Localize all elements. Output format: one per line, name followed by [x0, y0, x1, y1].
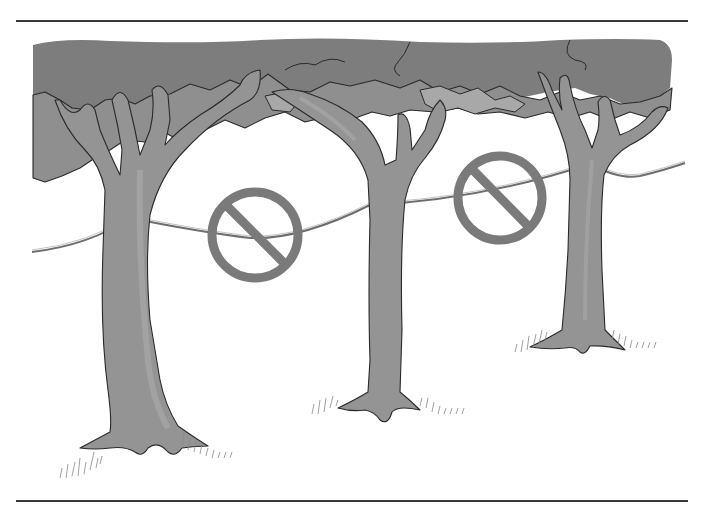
middle-tree	[272, 89, 446, 421]
left-tree	[55, 70, 260, 454]
trees-rope-illustration	[0, 0, 710, 514]
illustration-frame	[0, 0, 710, 514]
no-symbol-right-span	[458, 156, 542, 240]
